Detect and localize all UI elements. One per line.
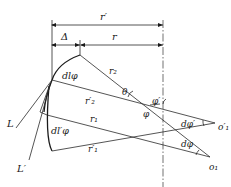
label-o1: o₁ bbox=[209, 162, 218, 172]
label-dl-prime-phi: dl′φ bbox=[51, 125, 69, 136]
label-phi: φ bbox=[143, 109, 150, 119]
line-r2-prime bbox=[52, 80, 215, 123]
label-delta: Δ bbox=[60, 31, 68, 42]
label-r1: r₁ bbox=[90, 114, 98, 124]
label-d-phi: dφ bbox=[181, 139, 194, 149]
label-d-phi-prime: dφ′ bbox=[181, 119, 195, 129]
label-r1-prime: r′₁ bbox=[88, 144, 98, 154]
edge-tick bbox=[40, 112, 47, 115]
label-phi-prime: φ′ bbox=[152, 96, 160, 106]
label-L-prime: L′ bbox=[16, 163, 27, 174]
angle-arc-phi-prime bbox=[163, 99, 166, 104]
label-r2-prime: r′₂ bbox=[85, 96, 95, 106]
label-o1-prime: o′₁ bbox=[218, 122, 229, 132]
label-r-prime: r′ bbox=[100, 11, 108, 22]
tangent-line-L bbox=[16, 80, 52, 128]
diagram-canvas: r′ Δ r dlφ dl′φ r₂ r′₂ r₁ r′₁ θ φ′ φ dφ′… bbox=[0, 0, 231, 187]
label-r: r bbox=[112, 31, 118, 42]
edge-curve-lower bbox=[47, 86, 52, 151]
label-theta: θ bbox=[122, 87, 128, 97]
label-r2: r₂ bbox=[109, 66, 117, 76]
label-L: L bbox=[6, 118, 14, 129]
label-dl-phi: dlφ bbox=[62, 70, 78, 81]
